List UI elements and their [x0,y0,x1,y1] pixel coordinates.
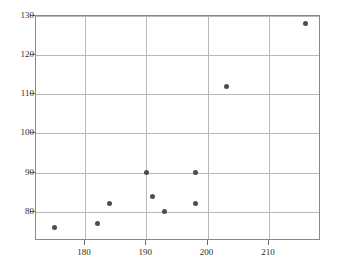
data-point [52,225,57,230]
gridline-vertical [146,16,147,239]
data-point [150,194,155,199]
x-axis-tick [84,240,85,245]
y-axis-tick-label: 110 [21,89,34,98]
gridline-horizontal [36,55,319,56]
x-axis-tick-label: 200 [200,248,214,257]
data-point [193,201,198,206]
data-point [95,221,100,226]
gridline-horizontal [36,173,319,174]
gridline-horizontal [36,16,319,17]
y-axis-tick-label: 100 [21,128,35,137]
x-axis-tick [145,240,146,245]
data-point [224,84,229,89]
y-axis-tick-label: 80 [25,207,34,216]
data-point [162,209,167,214]
gridline-horizontal [36,212,319,213]
x-axis-tick [268,240,269,245]
plot-area [35,15,320,240]
gridline-vertical [208,16,209,239]
x-axis-tick [207,240,208,245]
data-point [107,201,112,206]
gridline-horizontal [36,94,319,95]
x-axis-tick-label: 190 [139,248,153,257]
y-axis-tick-label: 130 [21,11,35,20]
data-point [303,21,308,26]
x-axis-tick-label: 210 [261,248,275,257]
y-axis-tick-label: 120 [21,50,35,59]
data-point [193,170,198,175]
gridline-horizontal [36,133,319,134]
gridline-vertical [85,16,86,239]
data-point [144,170,149,175]
x-axis-tick-label: 180 [77,248,91,257]
gridline-vertical [269,16,270,239]
y-axis-tick-label: 90 [25,168,34,177]
scatter-chart: 8090100110120130 180190200210 [0,0,337,270]
